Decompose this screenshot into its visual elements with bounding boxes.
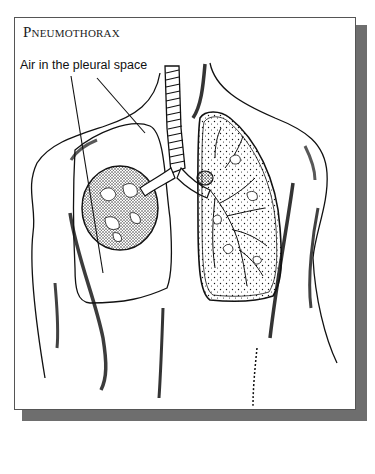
trachea <box>165 66 185 173</box>
normal-lung <box>198 112 281 301</box>
collapsed-lung <box>82 166 158 250</box>
figure-panel: Pneumothorax Air in the pleural space <box>14 17 356 410</box>
pneumothorax-illustration <box>15 18 356 410</box>
